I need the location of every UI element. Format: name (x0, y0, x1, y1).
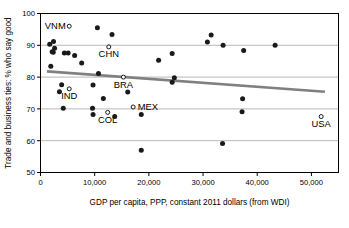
data-point (273, 43, 278, 48)
data-point (139, 112, 144, 117)
point-label-mex: MEX (138, 101, 159, 112)
data-point (170, 51, 175, 56)
y-tick-label-100: 100 (22, 9, 35, 18)
plot-background (41, 14, 339, 173)
data-point (220, 141, 225, 146)
data-point (110, 32, 115, 37)
data-point (90, 106, 95, 111)
y-tick-label-80: 80 (27, 73, 35, 82)
data-point (170, 80, 175, 85)
data-point (240, 96, 245, 101)
data-point (139, 148, 144, 153)
data-point (241, 48, 246, 53)
data-point (48, 64, 53, 69)
data-point (59, 82, 64, 87)
data-point (91, 112, 96, 117)
data-point (95, 25, 100, 30)
point-label-chn: CHN (99, 48, 119, 59)
scatter-chart: 5060708090100010,00020,00030,00040,00050… (0, 0, 349, 228)
data-point (125, 90, 130, 95)
y-tick-label-70: 70 (27, 105, 35, 114)
data-point (209, 33, 214, 38)
data-point (51, 39, 56, 44)
x-axis-title: GDP per capita, PPP, constant 2011 dolla… (90, 198, 290, 207)
x-tick-label-20000: 20,000 (137, 178, 160, 187)
data-point (72, 53, 77, 58)
point-label-col: COL (98, 114, 117, 125)
y-tick-label-50: 50 (27, 168, 35, 177)
data-point (91, 83, 96, 88)
data-point (61, 106, 66, 111)
data-point (79, 61, 84, 66)
y-tick-label-90: 90 (27, 41, 35, 50)
data-point (66, 50, 71, 55)
data-point-mex (131, 105, 135, 109)
data-point (205, 40, 210, 45)
point-label-vnm: VNM (45, 20, 66, 31)
x-tick-label-0: 0 (38, 178, 42, 187)
chart-canvas: 5060708090100010,00020,00030,00040,00050… (0, 0, 349, 228)
data-point (221, 43, 226, 48)
data-point-vnm (67, 24, 71, 28)
point-label-ind: IND (61, 90, 77, 101)
x-tick-label-40000: 40,000 (246, 178, 269, 187)
data-point (52, 46, 57, 51)
data-point (172, 75, 177, 80)
x-tick-label-50000: 50,000 (300, 178, 323, 187)
x-tick-label-30000: 30,000 (191, 178, 214, 187)
point-label-bra: BRA (114, 79, 134, 90)
data-point (156, 58, 161, 63)
y-axis-title: Trade and business ties: % who say good (4, 17, 13, 169)
data-point (101, 96, 106, 101)
point-label-usa: USA (312, 118, 332, 129)
y-tick-label-60: 60 (27, 137, 35, 146)
data-point (240, 109, 245, 114)
x-tick-label-10000: 10,000 (83, 178, 106, 187)
data-point (96, 71, 101, 76)
